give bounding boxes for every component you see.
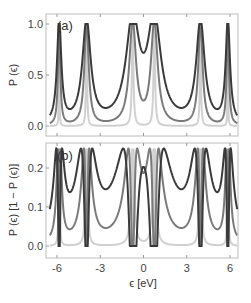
- tick-label: 0.1: [28, 201, 43, 213]
- panel-b-curves: [50, 149, 237, 247]
- panel-b-label: (b): [57, 148, 73, 163]
- tick-label: 1.0: [28, 18, 43, 30]
- panel-a-ylabel: P (ϵ): [7, 64, 19, 86]
- tick-label: -3: [95, 262, 105, 274]
- tick-label: 0.0: [28, 120, 43, 132]
- chart-figure: -6-30360.00.51.00.00.10.2 (a) (b) P (ϵ) …: [0, 0, 251, 303]
- curve-a-2: [50, 24, 237, 126]
- tick-label: 0: [140, 262, 146, 274]
- panel-a-curves: [50, 24, 237, 126]
- panel-a-label: (a): [57, 18, 73, 33]
- tick-label: 3: [184, 262, 190, 274]
- tick-label: 0.5: [28, 69, 43, 81]
- tick-label: 6: [227, 262, 233, 274]
- x-axis-label: ϵ [eV]: [129, 277, 156, 289]
- curve-a-1: [50, 24, 237, 123]
- panel-b-ylabel: P (ϵ) [1 − P (ϵ)]: [7, 164, 19, 237]
- tick-label: -6: [52, 262, 62, 274]
- tick-label: 0.2: [28, 162, 43, 174]
- tick-label: 0.0: [28, 240, 43, 252]
- curve-b-0: [50, 149, 237, 247]
